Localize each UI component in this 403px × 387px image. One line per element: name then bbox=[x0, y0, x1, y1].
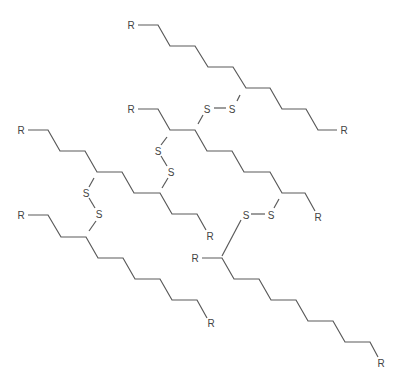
disulfide-bond-3-end-bond bbox=[89, 221, 96, 231]
disulfide-crosslinked-structure: RRRRRRRRRRSSSSSSSS bbox=[0, 0, 403, 387]
r-group-label: R bbox=[377, 358, 384, 369]
disulfide-bond-2-bond bbox=[161, 137, 167, 145]
sulfur-atom-label: S bbox=[168, 167, 175, 178]
carbon-chain-1 bbox=[138, 25, 337, 130]
disulfide-bond-1-end-bond bbox=[198, 115, 203, 124]
sulfur-atom-label: S bbox=[268, 210, 275, 221]
disulfide-bond-4-bond bbox=[274, 199, 279, 208]
carbon-chain-5 bbox=[202, 258, 378, 357]
r-group-label: R bbox=[127, 104, 134, 115]
disulfide-bond-1-bond bbox=[237, 95, 240, 101]
sulfur-atom-label: S bbox=[229, 104, 236, 115]
r-group-label: R bbox=[191, 253, 198, 264]
disulfide-bond-3-ss-bond bbox=[89, 198, 95, 208]
carbon-chain-2 bbox=[138, 109, 315, 211]
r-group-label: R bbox=[207, 318, 214, 329]
r-group-label: R bbox=[340, 125, 347, 136]
r-group-label: R bbox=[17, 125, 24, 136]
sulfur-atom-label: S bbox=[204, 104, 211, 115]
carbon-chain-3 bbox=[28, 130, 206, 230]
carbon-chain-4 bbox=[28, 215, 207, 318]
disulfide-bond-4-end-bond bbox=[222, 220, 241, 256]
r-group-label: R bbox=[127, 20, 134, 31]
sulfur-atom-label: S bbox=[96, 209, 103, 220]
sulfur-atom-label: S bbox=[243, 210, 250, 221]
disulfide-bond-2-end-bond bbox=[162, 178, 168, 188]
atom-labels: RRRRRRRRRRSSSSSSSS bbox=[17, 20, 384, 369]
r-group-label: R bbox=[206, 231, 213, 242]
disulfide-bond-3-bond bbox=[89, 178, 94, 187]
sulfur-atom-label: S bbox=[155, 146, 162, 157]
sulfur-atom-label: S bbox=[83, 188, 90, 199]
r-group-label: R bbox=[314, 212, 321, 223]
disulfide-bond-2-ss-bond bbox=[161, 156, 167, 166]
r-group-label: R bbox=[17, 210, 24, 221]
disulfide-bridges bbox=[89, 95, 279, 256]
hydrocarbon-chains bbox=[28, 25, 378, 357]
